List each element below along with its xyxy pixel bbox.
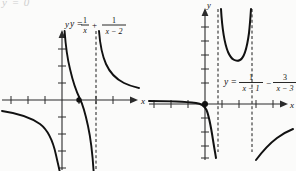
right-term-2-denominator: x − 3: [276, 84, 294, 93]
left-term-2-numerator: 1: [112, 16, 116, 25]
left-term-2-denominator: x − 2: [105, 27, 123, 36]
left-term-1-denominator: x: [82, 26, 87, 35]
cut-off-text-fragment: y = 0: [2, 0, 30, 8]
math-figure: y = 0: [0, 0, 296, 171]
right-term-1-numerator: 1: [249, 73, 253, 82]
right-term-2-numerator: 3: [283, 73, 287, 82]
figure-canvas: x y y = 1 x + 1 x − 2: [0, 0, 296, 171]
right-x-axis-label: x: [289, 100, 294, 110]
right-equation-lhs: y =: [223, 77, 237, 87]
left-marked-point: [76, 97, 81, 102]
right-term-1-denominator: x − 1: [242, 84, 260, 93]
left-x-axis-label: x: [140, 96, 145, 106]
left-equation-lhs: y =: [69, 19, 83, 29]
left-y-axis-label: y: [64, 19, 69, 29]
left-term-1-numerator: 1: [83, 16, 87, 25]
right-marked-point: [202, 101, 208, 107]
right-term-2-operator: −: [266, 78, 271, 88]
left-term-2-operator: +: [92, 20, 97, 30]
right-y-axis-label: y: [206, 0, 211, 10]
